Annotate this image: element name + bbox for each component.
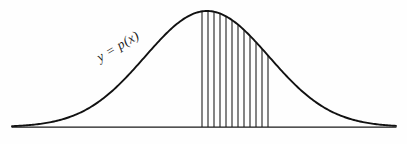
probability-density-figure: y = p(x) <box>0 0 407 144</box>
shaded-region-hatching <box>202 12 268 127</box>
figure-container: y = p(x) <box>0 0 407 144</box>
curve-label: y = p(x) <box>92 28 142 66</box>
density-curve <box>12 11 396 126</box>
